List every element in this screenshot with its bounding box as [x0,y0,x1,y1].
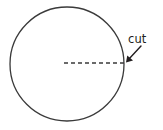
cut-label: cut [128,32,147,46]
circle-outline [10,7,124,121]
circle-diagram: cut [0,0,163,130]
figure-container: cut [0,0,163,130]
arrow-shaft-icon [129,46,142,60]
cut-arrow [126,46,141,63]
